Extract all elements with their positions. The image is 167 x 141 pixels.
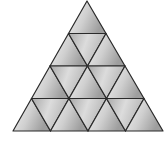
upward-triangle [69, 1, 107, 34]
subdivided-triangle [0, 0, 167, 141]
triangle-puzzle-figure [0, 0, 167, 141]
small-triangles [13, 1, 163, 131]
